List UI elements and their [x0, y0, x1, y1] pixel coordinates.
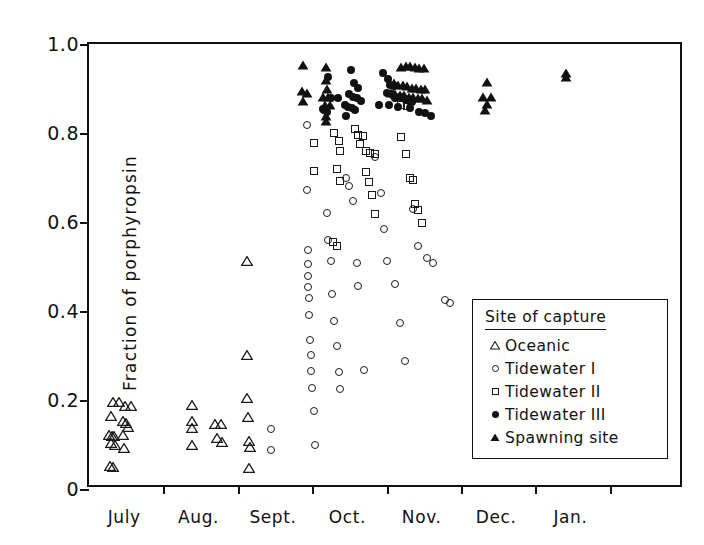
data-point — [383, 257, 391, 265]
legend-label: Oceanic — [505, 337, 570, 355]
data-point — [105, 411, 117, 421]
data-point — [125, 401, 137, 411]
data-point — [368, 191, 376, 199]
y-tick — [80, 400, 89, 402]
data-point — [391, 280, 399, 288]
data-point — [307, 351, 315, 359]
data-point — [377, 189, 385, 197]
data-point — [371, 150, 379, 158]
data-point — [323, 209, 331, 217]
data-point — [371, 210, 379, 218]
legend-entries: OceanicTidewater ITidewater IITidewater … — [485, 334, 657, 449]
y-tick — [80, 133, 89, 135]
filled-circle-icon — [485, 411, 505, 418]
data-point — [328, 290, 336, 298]
x-tick — [163, 485, 165, 494]
data-point — [186, 400, 198, 410]
x-tick-label: Jan. — [553, 507, 587, 527]
data-point — [342, 112, 350, 120]
data-point — [418, 63, 430, 73]
data-point — [244, 442, 256, 452]
data-point — [297, 60, 309, 70]
data-point — [357, 97, 365, 105]
data-point — [396, 319, 404, 327]
data-point — [345, 182, 353, 190]
open-circle-icon — [485, 365, 505, 372]
data-point — [380, 225, 388, 233]
data-point — [303, 121, 311, 129]
data-point — [308, 384, 316, 392]
open-triangle-icon — [485, 341, 505, 350]
x-tick-label: Sept. — [249, 507, 296, 527]
data-point — [446, 299, 454, 307]
data-point — [267, 446, 275, 454]
x-tick-label: Dec. — [476, 507, 517, 527]
data-point — [336, 385, 344, 393]
legend: Site of capture OceanicTidewater ITidewa… — [472, 299, 668, 459]
data-point — [186, 440, 198, 450]
data-point — [414, 206, 422, 214]
data-point — [406, 104, 414, 112]
data-point — [311, 441, 319, 449]
data-point — [306, 336, 314, 344]
filled-triangle-icon — [485, 433, 505, 442]
data-point — [479, 105, 491, 115]
data-point — [385, 101, 393, 109]
data-point — [117, 430, 129, 440]
data-point — [310, 139, 318, 147]
data-point — [414, 242, 422, 250]
data-point — [354, 282, 362, 290]
data-point — [421, 95, 433, 105]
data-point — [267, 425, 275, 433]
open-square-icon — [485, 388, 505, 395]
y-tick — [80, 44, 89, 46]
legend-title: Site of capture — [485, 308, 606, 330]
data-point — [333, 342, 341, 350]
data-point — [216, 437, 228, 447]
y-tick — [80, 311, 89, 313]
legend-entry: Tidewater I — [485, 357, 657, 380]
x-tick-label: Aug. — [178, 507, 219, 527]
data-point — [560, 72, 572, 82]
legend-label: Tidewater I — [505, 360, 596, 378]
data-point — [304, 260, 312, 268]
legend-entry: Oceanic — [485, 334, 657, 357]
data-point — [304, 283, 312, 291]
x-tick-label: July — [108, 507, 141, 527]
data-point — [333, 242, 341, 250]
x-tick — [387, 485, 389, 494]
figure-container: Fraction of porphyropsin 00.20.40.60.81.… — [0, 0, 704, 545]
data-point — [305, 294, 313, 302]
data-point — [360, 366, 368, 374]
x-tick — [610, 485, 612, 494]
data-point — [349, 197, 357, 205]
legend-label: Spawning site — [505, 429, 619, 447]
data-point — [359, 132, 367, 140]
y-tick-label: 0.8 — [47, 122, 79, 144]
y-tick — [80, 222, 89, 224]
legend-label: Tidewater II — [505, 383, 601, 401]
data-point — [304, 272, 312, 280]
data-point — [324, 100, 336, 110]
y-tick-label: 0.4 — [47, 300, 79, 322]
data-point — [409, 176, 417, 184]
data-point — [310, 167, 318, 175]
y-tick — [80, 489, 89, 491]
data-point — [241, 350, 253, 360]
data-point — [336, 177, 344, 185]
x-tick — [238, 485, 240, 494]
data-point — [241, 393, 253, 403]
data-point — [335, 368, 343, 376]
x-tick — [535, 485, 537, 494]
data-point — [118, 443, 130, 453]
data-point — [375, 101, 383, 109]
data-point — [481, 77, 493, 87]
data-point — [336, 147, 344, 155]
legend-entry: Spawning site — [485, 426, 657, 449]
data-point — [320, 62, 332, 72]
data-point — [418, 219, 426, 227]
data-point — [310, 407, 318, 415]
data-point — [307, 367, 315, 375]
data-point — [351, 106, 359, 114]
data-point — [427, 112, 435, 120]
